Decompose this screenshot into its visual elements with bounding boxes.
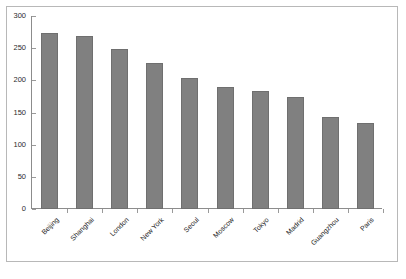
x-category-label: Shanghai [69, 216, 95, 242]
x-category-label: Guangzhou [310, 216, 341, 247]
x-category-label: Seoul [182, 216, 200, 234]
x-category-label: Tokyo [252, 216, 270, 234]
x-category-label: Moscow [212, 216, 235, 239]
bar-chart-figure: 050100150200250300 BeijingShanghaiLondon… [0, 0, 406, 279]
x-category-label: London [108, 216, 129, 237]
x-axis-category-labels: BeijingShanghaiLondonNew YorkSeoulMoscow… [0, 0, 406, 279]
x-category-label: New York [139, 216, 165, 242]
x-category-label: Madrid [285, 216, 305, 236]
x-category-label: Beijing [40, 216, 60, 236]
x-category-label: Paris [359, 216, 375, 232]
